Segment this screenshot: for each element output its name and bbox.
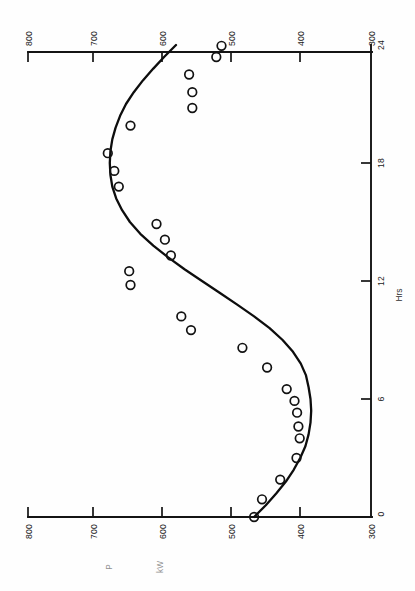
- data-point: [276, 475, 285, 484]
- bottom-tick-label-700: 700: [89, 524, 99, 539]
- bottom-tick-label-400: 400: [296, 524, 306, 539]
- hours-tick-label-24: 24: [376, 40, 386, 50]
- top-tick-label-800: 800: [24, 31, 34, 46]
- power-axis-title: P: [105, 564, 114, 570]
- top-axis-tick-labels: 800 700 600 500 400 300: [24, 31, 377, 46]
- data-point: [187, 326, 196, 335]
- hours-tick-label-12: 12: [376, 276, 386, 286]
- power-units-label: kW: [156, 561, 165, 573]
- data-point: [125, 267, 134, 276]
- bottom-tick-label-500: 500: [227, 524, 237, 539]
- data-point: [290, 397, 299, 406]
- plot-canvas: 800 700 600 500 400 300 800 700 600 500 …: [0, 0, 415, 591]
- bottom-tick-label-600: 600: [158, 524, 168, 539]
- top-tick-label-400: 400: [296, 31, 306, 46]
- fitted-curve: [110, 45, 311, 517]
- data-point: [115, 182, 124, 191]
- bottom-tick-label-300: 300: [367, 524, 377, 539]
- data-point: [263, 363, 272, 372]
- hours-tick-label-18: 18: [376, 158, 386, 168]
- data-point: [217, 42, 226, 51]
- top-tick-label-500: 500: [227, 31, 237, 46]
- data-point: [152, 220, 161, 229]
- data-point: [177, 312, 186, 321]
- hours-tick-label-0: 0: [376, 511, 386, 516]
- bottom-axis-tick-labels: 800 700 600 500 400 300: [24, 524, 377, 539]
- top-tick-label-700: 700: [89, 31, 99, 46]
- data-point: [258, 495, 267, 504]
- data-point: [188, 104, 197, 113]
- bottom-tick-label-800: 800: [24, 524, 34, 539]
- data-point: [293, 408, 302, 417]
- data-point: [282, 385, 291, 394]
- data-point: [238, 344, 247, 353]
- hours-axis-ticks: [361, 163, 371, 399]
- data-point: [294, 422, 303, 431]
- data-point: [126, 121, 135, 130]
- data-point: [185, 70, 194, 79]
- data-point: [188, 88, 197, 97]
- data-point: [161, 235, 170, 244]
- data-point: [295, 434, 304, 443]
- top-tick-label-600: 600: [158, 31, 168, 46]
- data-point: [126, 281, 135, 290]
- chart-figure: 800 700 600 500 400 300 800 700 600 500 …: [0, 0, 415, 591]
- data-point: [212, 53, 221, 62]
- hours-axis-tick-labels: 24 18 12 6 0: [376, 40, 386, 516]
- hours-axis-title: Hrs: [394, 288, 404, 301]
- hours-tick-label-6: 6: [376, 396, 386, 401]
